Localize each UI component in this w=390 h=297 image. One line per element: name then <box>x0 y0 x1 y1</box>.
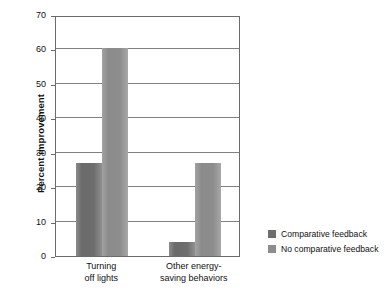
y-axis-tick-mark <box>51 257 55 258</box>
bar-chart-figure: Percent improvement 010203040506070 Turn… <box>0 0 390 297</box>
legend-swatch-icon <box>268 245 276 253</box>
legend-item[interactable]: Comparative feedback <box>268 226 378 241</box>
y-axis-tick-label: 50 <box>20 80 46 89</box>
chart-legend: Comparative feedback No comparative feed… <box>268 226 378 256</box>
gridline <box>56 48 239 49</box>
y-axis-tick-label: 30 <box>20 149 46 158</box>
legend-item-label: No comparative feedback <box>281 244 378 254</box>
legend-item[interactable]: No comparative feedback <box>268 241 378 256</box>
gridline <box>56 152 239 153</box>
legend-item-label: Comparative feedback <box>281 229 367 239</box>
y-axis-tick-label: 0 <box>20 252 46 261</box>
gridline <box>56 83 239 84</box>
plot-area <box>55 16 240 257</box>
bar <box>102 48 128 256</box>
y-axis-tick-label: 20 <box>20 183 46 192</box>
y-axis-tick-label: 70 <box>20 11 46 20</box>
bar <box>169 242 195 256</box>
x-axis-category-label-line: saving behaviors <box>139 273 249 285</box>
y-axis-tick-label: 60 <box>20 45 46 54</box>
y-axis-tick-label: 40 <box>20 114 46 123</box>
x-axis-category-label-line: Other energy- <box>139 261 249 273</box>
x-axis-category-label: Other energy-saving behaviors <box>139 261 249 284</box>
bar <box>195 163 221 256</box>
bar <box>76 163 102 256</box>
gridline <box>56 117 239 118</box>
y-axis-tick-label: 10 <box>20 218 46 227</box>
y-axis-title: Percent improvement <box>35 49 46 239</box>
legend-swatch-icon <box>268 230 276 238</box>
